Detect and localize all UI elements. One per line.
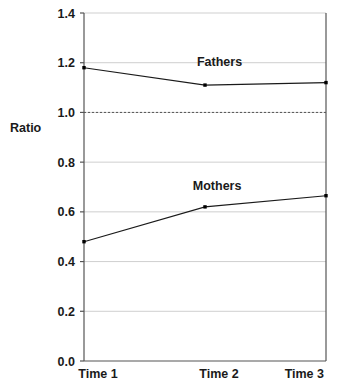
- series-label-mothers: Mothers: [193, 179, 242, 193]
- data-point-mothers-2: [324, 194, 327, 197]
- y-tick-label: 0.8: [58, 156, 75, 170]
- y-tick-label: 0.6: [58, 205, 75, 219]
- data-point-mothers-1: [203, 205, 206, 208]
- data-point-fathers-0: [82, 66, 85, 69]
- y-tick-label: 1.0: [58, 106, 75, 120]
- x-category-label-2: Time 2: [199, 367, 238, 381]
- category-label-group: Time 1Time 2Time 3: [78, 367, 324, 381]
- y-axis-title: Ratio: [10, 121, 42, 135]
- data-point-fathers-1: [203, 83, 206, 86]
- y-tick-label: 0.0: [58, 355, 75, 369]
- chart-container: 0.00.20.40.60.81.01.21.4 FathersMothers …: [0, 0, 345, 389]
- data-point-fathers-2: [324, 81, 327, 84]
- chart-background: [0, 0, 345, 389]
- y-tick-label: 1.4: [58, 7, 75, 21]
- ratio-line-chart: 0.00.20.40.60.81.01.21.4 FathersMothers …: [0, 0, 345, 389]
- y-tick-label: 0.4: [58, 255, 75, 269]
- series-label-fathers: Fathers: [197, 55, 242, 69]
- x-category-label-3: Time 3: [285, 367, 324, 381]
- data-point-mothers-0: [82, 240, 85, 243]
- x-category-label-1: Time 1: [78, 367, 117, 381]
- y-tick-label: 1.2: [58, 56, 75, 70]
- y-tick-label: 0.2: [58, 305, 75, 319]
